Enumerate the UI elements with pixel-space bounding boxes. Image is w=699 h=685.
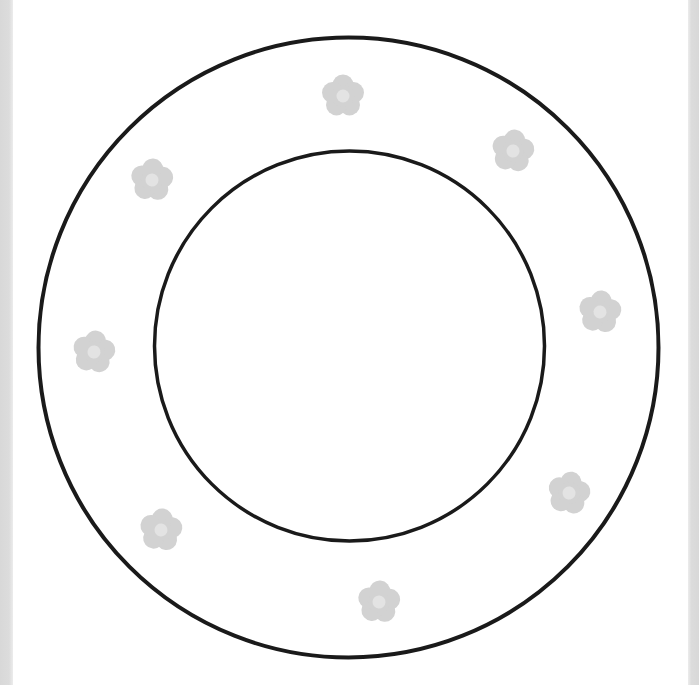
ring-drawing	[0, 0, 699, 685]
inner-circle	[155, 151, 545, 541]
flower-icon	[322, 75, 364, 116]
flower-icon	[138, 506, 184, 551]
flower-icon	[130, 157, 175, 201]
flower-icon	[357, 579, 402, 623]
flower-icon	[490, 127, 537, 173]
flower-icon	[71, 328, 118, 374]
flower-icon	[577, 288, 623, 333]
outer-circle	[39, 38, 659, 658]
flower-icon	[545, 468, 593, 516]
